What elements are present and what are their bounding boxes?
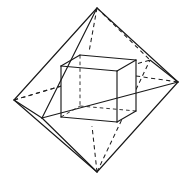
cube-face-front xyxy=(61,66,117,122)
cube-occluder xyxy=(61,55,136,122)
figure-container xyxy=(0,0,186,185)
geometric-figure-octahedron-with-cube xyxy=(0,0,186,185)
